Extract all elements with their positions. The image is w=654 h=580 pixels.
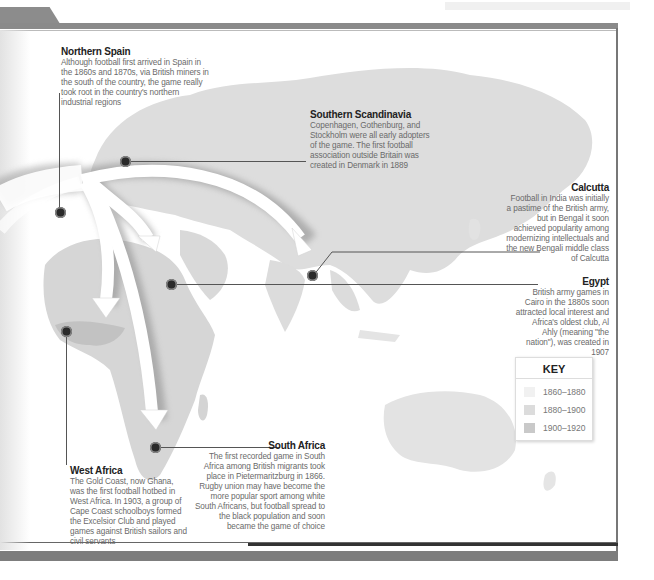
- annotation-title: Calcutta: [505, 182, 609, 194]
- annotation-title: West Africa: [70, 465, 188, 477]
- key-swatch: [524, 387, 535, 397]
- annotation-text: The first recorded game in South Africa …: [195, 452, 325, 532]
- annotation-southern-scandinavia: Southern Scandinavia Copenhagen, Gothenb…: [310, 109, 430, 171]
- map-key: KEY 1860–1880 1880–1900 1900–1920: [515, 357, 593, 441]
- annotation-title: Egypt: [515, 276, 609, 288]
- key-item-1900-1920: 1900–1920: [524, 419, 592, 437]
- annotation-title: South Africa: [195, 440, 325, 452]
- key-item-1880-1900: 1880–1900: [524, 401, 592, 419]
- annotation-title: Southern Scandinavia: [310, 109, 430, 121]
- annotation-title: Northern Spain: [61, 46, 211, 58]
- marker-egypt[interactable]: [166, 279, 177, 290]
- marker-southern-scandinavia[interactable]: [120, 156, 131, 167]
- annotation-west-africa: West Africa The Gold Coast, now Ghana, w…: [70, 465, 188, 547]
- annotation-egypt: Egypt British army games in Cairo in the…: [515, 276, 609, 358]
- key-swatch: [524, 405, 535, 415]
- annotation-text: The Gold Coast, now Ghana, was the first…: [70, 477, 188, 547]
- key-title: KEY: [516, 358, 592, 379]
- key-label: 1900–1920: [543, 423, 586, 433]
- annotation-text: Copenhagen, Gothenburg, and Stockholm we…: [310, 121, 430, 171]
- annotation-text: Football in India was initially a pastim…: [505, 194, 609, 264]
- key-item-1860-1880: 1860–1880: [524, 383, 592, 401]
- annotation-south-africa: South Africa The first recorded game in …: [195, 440, 325, 532]
- marker-west-africa[interactable]: [61, 326, 72, 337]
- marker-south-africa[interactable]: [150, 442, 161, 453]
- key-label: 1860–1880: [543, 387, 586, 397]
- key-swatch: [524, 423, 535, 433]
- marker-northern-spain[interactable]: [55, 207, 66, 218]
- annotation-calcutta: Calcutta Football in India was initially…: [505, 182, 609, 264]
- key-label: 1880–1900: [543, 405, 586, 415]
- annotation-text: British army games in Cairo in the 1880s…: [515, 288, 609, 358]
- annotation-text: Although football first arrived in Spain…: [61, 58, 211, 108]
- annotation-northern-spain: Northern Spain Although football first a…: [61, 46, 211, 108]
- marker-calcutta[interactable]: [307, 270, 318, 281]
